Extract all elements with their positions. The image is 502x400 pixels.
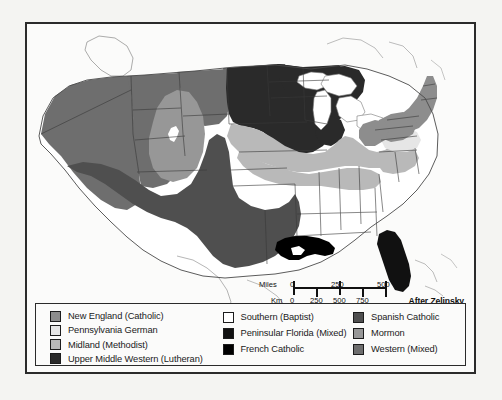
legend-item-french-catholic[interactable]: French Catholic [223, 342, 354, 356]
legend-label-french-catholic: French Catholic [241, 344, 305, 354]
map-frame: Miles 0 250 500 Km 0 250 500 750 After Z… [25, 22, 476, 374]
legend-item-new-england[interactable]: New England (Catholic) [50, 310, 223, 322]
legend-label-mormon: Mormon [371, 328, 405, 338]
legend-swatch-western-mixed [353, 344, 364, 355]
legend-label-new-england: New England (Catholic) [68, 311, 163, 321]
legend-item-mormon[interactable]: Mormon [353, 326, 465, 340]
legend-label-upper-middle-western: Upper Middle Western (Lutheran) [68, 354, 203, 364]
legend-label-peninsular-florida: Peninsular Florida (Mixed) [241, 328, 347, 338]
legend-item-peninsular-florida[interactable]: Peninsular Florida (Mixed) [223, 326, 354, 340]
legend-label-spanish-catholic: Spanish Catholic [371, 312, 439, 322]
legend-swatch-upper-middle-western [50, 353, 61, 364]
legend-column-1: New England (Catholic) Pennsylvania Germ… [50, 310, 223, 365]
legend-item-southern[interactable]: Southern (Baptist) [223, 310, 354, 324]
legend-column-2: Southern (Baptist) Peninsular Florida (M… [223, 310, 354, 365]
legend-label-southern: Southern (Baptist) [241, 312, 314, 322]
legend-item-western-mixed[interactable]: Western (Mixed) [353, 342, 465, 356]
legend-swatch-midland [50, 339, 61, 350]
scale-miles-tick-1: 250 [331, 280, 344, 289]
map-legend: New England (Catholic) Pennsylvania Germ… [35, 303, 466, 366]
scale-miles-label: Miles [259, 280, 277, 289]
legend-item-upper-middle-western[interactable]: Upper Middle Western (Lutheran) [50, 353, 223, 365]
legend-column-3: Spanish Catholic Mormon Western (Mixed) [353, 310, 465, 365]
map-figure: Miles 0 250 500 Km 0 250 500 750 After Z… [0, 0, 502, 400]
legend-swatch-mormon [353, 328, 364, 339]
legend-swatch-spanish-catholic [353, 312, 364, 323]
scale-miles-tick-2: 500 [377, 280, 390, 289]
legend-swatch-peninsular-florida [223, 328, 234, 339]
legend-label-western-mixed: Western (Mixed) [371, 344, 438, 354]
legend-swatch-pennsylvania-german [50, 325, 61, 336]
legend-item-spanish-catholic[interactable]: Spanish Catholic [353, 310, 465, 324]
legend-label-midland: Midland (Methodist) [68, 340, 148, 350]
scale-miles-tick-0: 0 [290, 280, 294, 289]
legend-swatch-french-catholic [223, 344, 234, 355]
legend-label-pennsylvania-german: Pennsylvania German [68, 325, 158, 335]
map-canvas: Miles 0 250 500 Km 0 250 500 750 After Z… [27, 24, 474, 312]
legend-item-midland[interactable]: Midland (Methodist) [50, 339, 223, 351]
legend-swatch-new-england [50, 311, 61, 322]
legend-swatch-southern [223, 312, 234, 323]
us-religious-regions-map [27, 24, 474, 312]
legend-item-pennsylvania-german[interactable]: Pennsylvania German [50, 324, 223, 336]
